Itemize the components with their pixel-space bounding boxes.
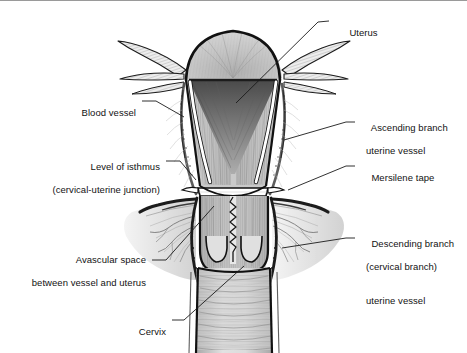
label-blood-vessel-text: Blood vessel bbox=[82, 107, 136, 118]
label-uterus-text: Uterus bbox=[349, 27, 377, 38]
label-ascending-branch: Ascending branch uterine vessel bbox=[366, 110, 448, 168]
paracervical-tissue-right bbox=[272, 198, 344, 280]
label-avascular-space: Avascular space between vessel and uteru… bbox=[0, 242, 146, 300]
vaginal-canal bbox=[189, 266, 279, 353]
leader-mersilene-tape bbox=[288, 166, 355, 190]
leader-ascending-branch bbox=[284, 122, 355, 140]
label-avascular-space-line1: Avascular space bbox=[76, 254, 146, 265]
leader-level-of-isthmus bbox=[166, 161, 196, 180]
label-level-of-isthmus-line2: (cervical-uterine junction) bbox=[0, 184, 160, 196]
label-cervix-text: Cervix bbox=[139, 326, 166, 337]
leader-blood-vessel bbox=[142, 101, 184, 117]
cervix bbox=[198, 194, 270, 274]
label-uterus: Uterus bbox=[344, 15, 378, 38]
label-level-of-isthmus: Level of isthmus (cervical-uterine junct… bbox=[0, 149, 160, 207]
label-blood-vessel: Blood vessel bbox=[0, 95, 136, 118]
label-mersilene-tape-text: Mersilene tape bbox=[371, 172, 434, 183]
label-level-of-isthmus-line1: Level of isthmus bbox=[91, 161, 160, 172]
label-ascending-branch-line2: uterine vessel bbox=[366, 145, 448, 157]
label-descending-branch-line1: Descending branch bbox=[371, 238, 454, 249]
label-mersilene-tape: Mersilene tape bbox=[366, 160, 434, 183]
label-descending-branch: Descending branch (cervical branch) uter… bbox=[366, 226, 454, 318]
label-descending-branch-line2: (cervical branch) bbox=[366, 261, 454, 273]
mersilene-tape bbox=[182, 187, 284, 196]
label-avascular-space-line2: between vessel and uterus bbox=[0, 277, 146, 289]
label-ascending-branch-line1: Ascending branch bbox=[371, 122, 448, 133]
fallopian-tube-left bbox=[118, 41, 186, 94]
fallopian-tube-right bbox=[282, 41, 350, 94]
label-descending-branch-line3: uterine vessel bbox=[366, 295, 454, 307]
label-cervix: Cervix bbox=[0, 314, 166, 337]
